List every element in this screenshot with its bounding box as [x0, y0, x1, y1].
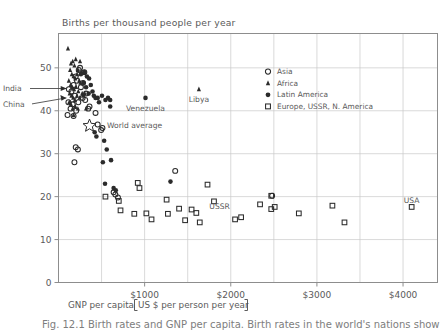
data-point	[95, 122, 100, 127]
x-tick-labels: $1000$2000$3000$4000	[130, 290, 417, 300]
data-point	[149, 217, 154, 222]
data-point	[101, 160, 106, 165]
data-point	[76, 100, 81, 105]
y-tick-label: 20	[40, 192, 52, 202]
data-point	[94, 134, 99, 139]
y-tick-label: 50	[40, 63, 52, 73]
data-point	[81, 81, 86, 86]
data-point	[102, 139, 107, 144]
data-point	[168, 179, 173, 184]
world-average-star	[83, 119, 96, 131]
plot-frame	[59, 34, 438, 283]
legend-marker-asia	[265, 69, 270, 74]
data-point	[164, 197, 169, 202]
annotation-ussr: USSR	[209, 202, 230, 211]
data-point	[93, 110, 98, 115]
x-tick-label: $4000	[389, 290, 418, 300]
data-point	[103, 181, 108, 186]
legend-label-europe: Europe, USSR, N. America	[277, 102, 373, 111]
legend: AsiaAfricaLatin AmericaEurope, USSR, N. …	[265, 67, 373, 111]
data-point	[143, 96, 148, 101]
annotation-libya: Libya	[189, 95, 209, 104]
data-point	[194, 211, 199, 216]
data-point	[90, 89, 95, 94]
data-point	[86, 91, 91, 96]
scatter-plot-svg: 01020304050 $1000$2000$3000$4000 IndiaCh…	[0, 0, 446, 330]
series-europe-ussr-n-america	[103, 181, 414, 225]
y-tick-label: 30	[40, 149, 52, 159]
leader-arrow-india	[61, 86, 67, 91]
data-point	[87, 76, 92, 81]
y-tick-label: 0	[46, 278, 52, 288]
data-point	[330, 203, 335, 208]
gridlines	[59, 34, 438, 283]
data-point	[74, 57, 78, 62]
legend-marker-latin	[266, 92, 271, 97]
data-point	[84, 85, 89, 90]
data-point	[113, 188, 118, 193]
x-axis-label-main: GNP per capita	[68, 300, 134, 310]
data-point	[197, 220, 202, 225]
data-point	[65, 113, 70, 118]
chart-title: Births per thousand people per year	[62, 17, 236, 28]
annotation-china: China	[3, 100, 25, 109]
data-point	[233, 217, 238, 222]
y-tick-labels: 01020304050	[40, 63, 52, 288]
annotation-venezuela: Venezuela	[126, 104, 165, 113]
figure-caption: Fig. 12.1 Birth rates and GNP per capita…	[42, 319, 440, 330]
legend-marker-africa	[266, 80, 270, 85]
data-point	[72, 160, 77, 165]
legend-label-africa: Africa	[277, 79, 298, 88]
data-point	[104, 147, 109, 152]
data-point	[95, 96, 100, 101]
data-point	[258, 202, 263, 207]
chart-figure: 01020304050 $1000$2000$3000$4000 IndiaCh…	[0, 0, 446, 330]
data-point	[177, 206, 182, 211]
data-point	[66, 46, 70, 51]
legend-label-latin: Latin America	[277, 90, 328, 99]
data-point	[89, 83, 94, 88]
data-point	[97, 100, 102, 105]
data-point	[135, 181, 140, 186]
legend-label-asia: Asia	[277, 67, 293, 76]
x-tick-label: $1000	[130, 290, 159, 300]
data-point	[118, 208, 123, 213]
y-tick-label: 40	[40, 106, 52, 116]
data-point	[67, 78, 71, 83]
annotation-usa: USA	[404, 196, 421, 205]
data-point	[197, 87, 201, 92]
data-point	[296, 211, 301, 216]
x-tick-label: $2000	[216, 290, 245, 300]
data-point	[100, 93, 105, 98]
annotation-world-average: World average	[107, 121, 163, 130]
x-axis-label-bracket: US $ per person per year	[138, 300, 249, 310]
data-point	[137, 186, 142, 191]
x-tick-label: $3000	[303, 290, 332, 300]
legend-marker-europe	[266, 104, 271, 109]
data-point	[189, 207, 194, 212]
annotation-india: India	[3, 84, 22, 93]
leader-arrow-china	[60, 95, 66, 101]
data-point	[173, 168, 178, 173]
data-point	[108, 104, 113, 109]
data-point	[239, 215, 244, 220]
data-point	[132, 211, 137, 216]
data-point	[78, 59, 82, 64]
data-points	[65, 46, 414, 225]
data-point	[342, 220, 347, 225]
data-point	[109, 158, 114, 163]
data-point	[205, 182, 210, 187]
data-point	[82, 70, 87, 75]
data-point	[166, 211, 171, 216]
y-tick-label: 10	[40, 235, 52, 245]
data-point	[183, 218, 188, 223]
data-point	[108, 98, 113, 103]
